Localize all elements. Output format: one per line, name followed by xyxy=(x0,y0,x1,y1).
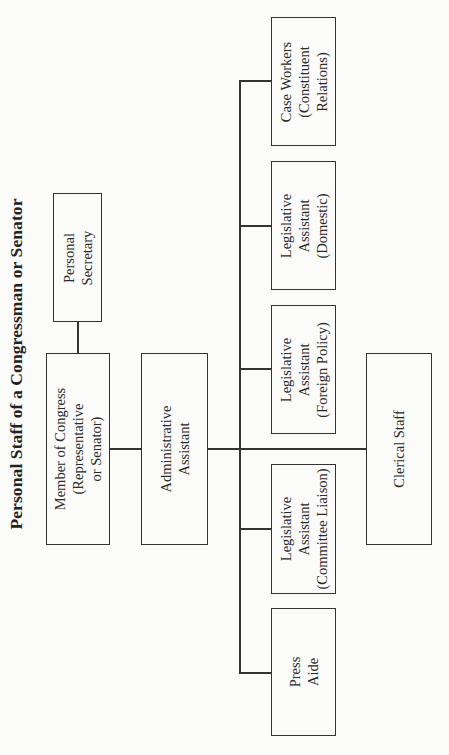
connector-staff-bus xyxy=(239,80,241,673)
connector-member-secretary xyxy=(77,321,79,354)
org-chart: Personal Staff of a Congressman or Senat… xyxy=(0,0,449,755)
node-administrative-assistant: Administrative Assistant xyxy=(141,353,208,545)
connector-branch-case-workers xyxy=(239,80,272,82)
node-legislative-assistant-foreign-policy: Legislative Assistant (Foreign Policy) xyxy=(271,305,336,434)
node-case-workers: Case Workers (Constituent Relations) xyxy=(271,17,336,146)
connector-branch-domestic xyxy=(239,225,272,227)
node-label: Administrative Assistant xyxy=(157,406,193,493)
connector-branch-press-aide xyxy=(239,672,272,674)
node-label: Personal Secretary xyxy=(60,230,96,285)
connector-branch-foreign-policy xyxy=(239,368,272,370)
node-legislative-assistant-committee-liaison: Legislative Assistant (Committee Liaison… xyxy=(271,464,336,594)
node-label: Press Aide xyxy=(286,657,322,688)
connector-branch-committee-liaison xyxy=(239,528,272,530)
node-member-of-congress: Member of Congress (Representative or Se… xyxy=(46,353,110,545)
node-legislative-assistant-domestic: Legislative Assistant (Domestic) xyxy=(271,161,336,290)
node-label: Member of Congress (Representative or Se… xyxy=(51,388,105,510)
node-label: Clerical Staff xyxy=(390,410,408,487)
node-label: Legislative Assistant (Domestic) xyxy=(277,193,331,258)
node-press-aide: Press Aide xyxy=(271,608,336,736)
connector-member-admin xyxy=(109,448,142,450)
node-label: Legislative Assistant (Committee Liaison… xyxy=(277,468,331,589)
node-label: Legislative Assistant (Foreign Policy) xyxy=(277,322,331,417)
node-clerical-staff: Clerical Staff xyxy=(366,353,432,545)
connector-admin-clerical xyxy=(207,448,367,450)
node-label: Case Workers (Constituent Relations) xyxy=(277,41,331,121)
chart-title: Personal Staff of a Congressman or Senat… xyxy=(6,198,27,529)
node-personal-secretary: Personal Secretary xyxy=(53,193,102,322)
